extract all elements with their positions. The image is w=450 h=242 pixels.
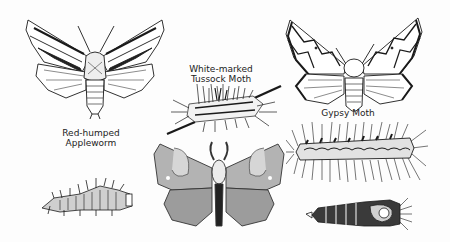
appleworm-label-line2: Appleworm	[60, 138, 122, 148]
appleworm-label-line1: Red-humped	[60, 128, 122, 138]
tussock-moth-label: White-marked Tussock Moth	[186, 64, 256, 84]
gypsy-caterpillar-figure	[286, 120, 430, 186]
gypsy-pupa-figure	[304, 194, 414, 232]
gypsy-moth-label: Gypsy Moth	[318, 108, 378, 118]
tussock-label-line1: White-marked	[186, 64, 256, 74]
illustration-plate: White-marked Tussock Moth	[0, 0, 450, 242]
appleworm-label: Red-humped Appleworm	[60, 128, 122, 148]
tussock-moth-adult-figure	[152, 140, 286, 232]
appleworm-moth-figure	[24, 14, 166, 120]
tussock-caterpillar-figure	[165, 82, 285, 137]
gypsy-moth-figure	[284, 14, 424, 112]
appleworm-caterpillar-figure	[40, 176, 136, 216]
